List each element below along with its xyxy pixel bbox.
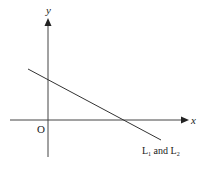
origin-label: O [37, 123, 45, 135]
x-axis-label: x [190, 114, 196, 126]
x-axis-arrow-icon [181, 117, 189, 124]
line-label-and-l2: and L [151, 145, 177, 156]
coordinate-diagram: y x O L1 and L2 [0, 0, 204, 171]
y-axis-label: y [45, 4, 51, 16]
line-label: L1 and L2 [142, 145, 180, 157]
y-axis-arrow-icon [45, 18, 52, 26]
line-label-sub2: 2 [177, 151, 180, 157]
